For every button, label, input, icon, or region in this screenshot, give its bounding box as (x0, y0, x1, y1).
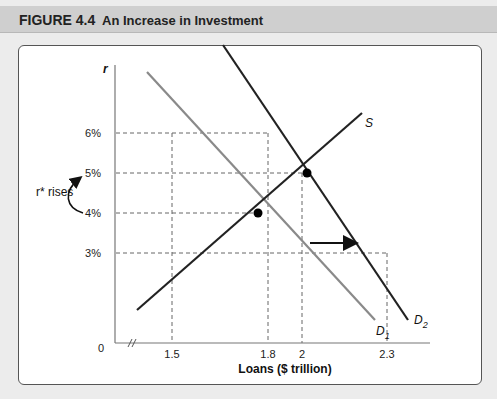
label-d1: D1 (376, 324, 390, 341)
y-tick-3: 3% (85, 247, 101, 259)
demand-curve-d1 (147, 72, 375, 320)
y-axis-label: r (103, 62, 109, 76)
supply-curve-s (137, 113, 362, 310)
x-tick-2-3: 2.3 (379, 348, 394, 360)
label-d2: D2 (414, 313, 428, 330)
x-tick-2: 2 (299, 348, 305, 360)
guide-lines (116, 133, 387, 343)
demand-curve-d2 (223, 45, 408, 320)
chart-svg: r 6% 5% 4% 3% 0 1.5 1.8 2 2.3 Loans ($ t… (0, 0, 497, 399)
x-tick-1-8: 1.8 (260, 348, 275, 360)
rstar-label: r* rises (36, 185, 73, 199)
x-tick-1-5: 1.5 (164, 348, 179, 360)
y-tick-5: 5% (85, 167, 101, 179)
equilibrium-point-1 (254, 209, 263, 218)
equilibrium-point-2 (303, 169, 312, 178)
y-tick-4: 4% (85, 207, 101, 219)
x-axis-label: Loans ($ trillion) (238, 362, 331, 376)
origin-label: 0 (98, 342, 104, 354)
y-tick-6: 6% (85, 127, 101, 139)
label-s: S (365, 116, 373, 130)
